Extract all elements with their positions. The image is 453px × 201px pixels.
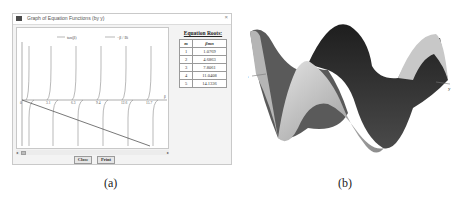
- print-button[interactable]: Print: [97, 156, 115, 164]
- root-index: 2: [180, 56, 193, 64]
- roots-table: m βmn 1 1.0769 2 4.6863 3 7.8061 4 11.04…: [179, 39, 227, 88]
- legend-tan: tan(β): [67, 35, 77, 40]
- scroll-left-icon[interactable]: ◂: [16, 150, 18, 155]
- x-tick: 6.3: [71, 101, 76, 105]
- caption-a: (a): [104, 176, 117, 191]
- tan-branches: [26, 46, 158, 146]
- surface-y-label: y: [448, 86, 451, 91]
- horizontal-scrollbar[interactable]: ◂ ▸: [16, 150, 169, 155]
- column-beta: βmn: [193, 40, 227, 48]
- scroll-thumb[interactable]: [21, 151, 26, 155]
- plot-legend: tan(β) −β / Bi: [57, 35, 129, 40]
- equation-roots-panel: Equation Roots: m βmn 1 1.0769 2 4.6863 …: [179, 30, 227, 87]
- x-axis-label: β: [164, 95, 166, 99]
- surface-x-label: x: [248, 74, 249, 79]
- plot-canvas: tan(β) −β / Bi: [17, 28, 170, 150]
- table-row: 5 14.1336: [180, 80, 227, 88]
- root-value: 11.0408: [193, 72, 227, 80]
- root-index: 4: [180, 72, 193, 80]
- root-index: 5: [180, 80, 193, 88]
- 3d-surface-plot: x y: [248, 18, 453, 168]
- close-button[interactable]: Close: [74, 156, 92, 164]
- title-bar: Graph of Equation Functions (by y) ×: [13, 14, 231, 25]
- window-title: Graph of Equation Functions (by y): [27, 15, 105, 21]
- scroll-right-icon[interactable]: ▸: [167, 150, 169, 155]
- root-value: 1.0769: [193, 48, 227, 56]
- table-row: 2 4.6863: [180, 56, 227, 64]
- roots-header-row: m βmn: [180, 40, 227, 48]
- legend-line: −β / Bi: [117, 35, 129, 40]
- table-row: 4 11.0408: [180, 72, 227, 80]
- caption-b: (b): [338, 176, 352, 191]
- x-tick: 12.6: [121, 101, 127, 105]
- table-row: 3 7.8061: [180, 64, 227, 72]
- equation-graph-window: Graph of Equation Functions (by y) × tan…: [12, 13, 232, 165]
- root-index: 3: [180, 64, 193, 72]
- root-value: 4.6863: [193, 56, 227, 64]
- x-tick: 15.7: [146, 101, 152, 105]
- x-tick: 9.4: [96, 101, 101, 105]
- window-close-button[interactable]: ×: [224, 14, 228, 20]
- equation-plot: tan(β) −β / Bi: [16, 27, 169, 149]
- column-m: m: [180, 40, 193, 48]
- roots-heading: Equation Roots:: [179, 30, 227, 36]
- x-tick: 3.1: [46, 101, 51, 105]
- root-index: 1: [180, 48, 193, 56]
- linear-function-line: [22, 100, 150, 146]
- app-icon: [16, 16, 22, 21]
- root-value: 7.8061: [193, 64, 227, 72]
- table-row: 1 1.0769: [180, 48, 227, 56]
- root-value: 14.1336: [193, 80, 227, 88]
- origin-label: 0: [20, 101, 22, 105]
